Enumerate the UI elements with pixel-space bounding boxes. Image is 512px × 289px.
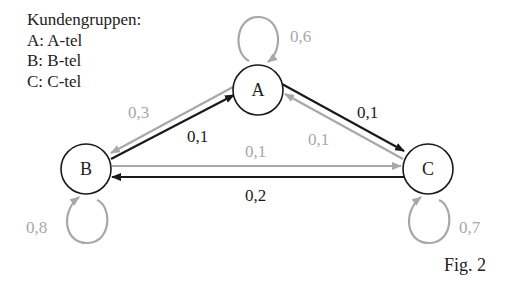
edge-label-c-a: 0,1 bbox=[308, 130, 329, 149]
edge-label-a-c: 0,1 bbox=[357, 103, 378, 122]
node-c: C bbox=[403, 144, 453, 194]
edge-a-a bbox=[238, 17, 278, 62]
edge-c-a bbox=[285, 94, 403, 159]
node-label-c: C bbox=[422, 159, 434, 179]
edge-label-b-a: 0,1 bbox=[187, 127, 208, 146]
edge-label-b-b: 0,8 bbox=[26, 218, 47, 237]
edge-b-b bbox=[67, 197, 107, 243]
edge-label-a-b: 0,3 bbox=[128, 103, 149, 122]
node-b: B bbox=[61, 144, 111, 194]
edge-c-c bbox=[409, 197, 449, 243]
edge-a-c bbox=[282, 84, 404, 151]
node-label-a: A bbox=[252, 80, 265, 100]
figure-caption: Fig. 2 bbox=[444, 255, 486, 276]
edge-label-c-b: 0,2 bbox=[245, 186, 266, 205]
edge-label-c-c: 0,7 bbox=[459, 218, 481, 237]
node-label-b: B bbox=[80, 159, 92, 179]
edge-label-a-a: 0,6 bbox=[290, 27, 311, 46]
state-diagram: 0,6 0,8 0,7 0,3 0,1 0,1 0,1 0,1 0,2 A B … bbox=[0, 0, 512, 289]
node-a: A bbox=[233, 65, 283, 115]
edge-label-b-c: 0,1 bbox=[245, 142, 266, 161]
